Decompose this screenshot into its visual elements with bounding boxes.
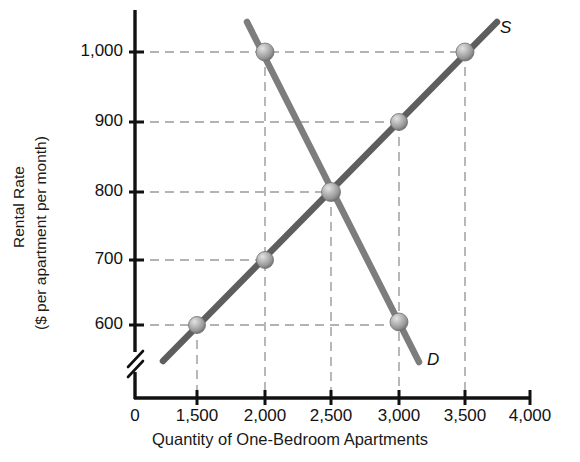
x-axis-title: Quantity of One-Bedroom Apartments — [0, 430, 580, 449]
x-tick-label-0: 0 — [114, 406, 156, 426]
supply-point-1500-600 — [189, 317, 206, 334]
supply-point-2000-700 — [257, 252, 274, 269]
y-axis-title-line-2: ($ per apartment per month) — [32, 136, 50, 330]
y-tick-label-700: 700 — [55, 249, 123, 269]
y-tick-label-600: 600 — [55, 314, 123, 334]
vertical-gridlines — [197, 52, 465, 392]
y-tick-label-900: 900 — [55, 111, 123, 131]
demand-point-3000-605 — [390, 313, 408, 331]
demand-point-2000-1000 — [256, 43, 274, 61]
supply-point-3000-900 — [391, 114, 408, 131]
y-tick-label-1000: 1,000 — [55, 41, 123, 61]
x-tick-label-3500: 3,500 — [430, 406, 500, 426]
x-tick-label-2000: 2,000 — [230, 406, 300, 426]
x-tick-label-2500: 2,500 — [296, 406, 366, 426]
horizontal-gridlines — [135, 52, 466, 325]
x-tick-label-4000: 4,000 — [495, 406, 565, 426]
y-axis-title-line-1: Rental Rate — [10, 166, 28, 248]
demand-curve-label: D — [427, 350, 439, 370]
chart-canvas — [0, 0, 580, 462]
y-tick-label-800: 800 — [55, 181, 123, 201]
supply-point-3500-1000 — [456, 43, 474, 61]
supply-curve-label: S — [500, 18, 511, 38]
x-tick-label-1500: 1,500 — [162, 406, 232, 426]
x-tick-label-3000: 3,000 — [364, 406, 434, 426]
equilibrium-point-2500-800 — [322, 183, 341, 202]
supply-demand-chart: 1,000 900 800 700 600 0 1,500 2,000 2,50… — [0, 0, 580, 462]
